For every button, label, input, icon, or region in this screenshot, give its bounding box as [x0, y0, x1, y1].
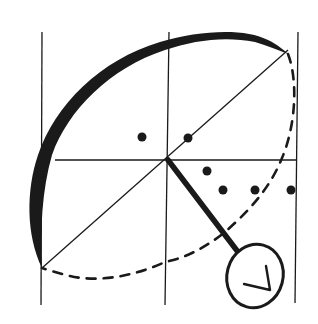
sketch-diagram — [0, 0, 318, 324]
dot — [287, 186, 296, 195]
dot — [184, 134, 193, 143]
diagram-canvas — [0, 0, 318, 324]
dot — [251, 186, 260, 195]
dot — [138, 133, 147, 142]
dot — [219, 186, 228, 195]
dot — [203, 167, 212, 176]
